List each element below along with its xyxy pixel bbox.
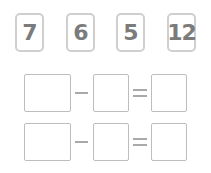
operand-b-slot[interactable] bbox=[93, 123, 129, 161]
result-slot[interactable] bbox=[151, 74, 187, 112]
number-card-1[interactable]: 7 bbox=[15, 13, 44, 52]
equals-sign-bottom-icon bbox=[133, 95, 147, 97]
operand-b-slot[interactable] bbox=[93, 74, 129, 112]
operand-a-slot[interactable] bbox=[24, 74, 71, 112]
equals-sign-bottom-icon bbox=[133, 144, 147, 146]
minus-sign-icon bbox=[75, 92, 88, 94]
equals-sign-top-icon bbox=[133, 89, 147, 91]
card-value: 5 bbox=[123, 20, 137, 45]
number-card-3[interactable]: 5 bbox=[116, 13, 145, 52]
result-slot[interactable] bbox=[151, 123, 187, 161]
equals-sign-top-icon bbox=[133, 138, 147, 140]
minus-sign-icon bbox=[75, 141, 88, 143]
number-card-2[interactable]: 6 bbox=[66, 13, 95, 52]
operand-a-slot[interactable] bbox=[24, 123, 71, 161]
card-value: 6 bbox=[73, 20, 87, 45]
card-value: 7 bbox=[22, 20, 36, 45]
number-card-4[interactable]: 12 bbox=[167, 13, 196, 52]
card-value: 12 bbox=[167, 20, 196, 45]
